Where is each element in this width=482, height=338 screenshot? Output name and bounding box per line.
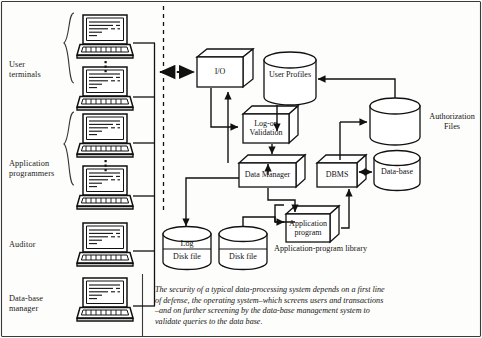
caption-line-1: The security of a typical data-processin… bbox=[155, 285, 455, 296]
store-authorization-files bbox=[370, 98, 420, 145]
store-disk-file bbox=[219, 227, 267, 270]
annotation-application-program-library: Application-program library bbox=[274, 244, 367, 253]
terminal-user-2 bbox=[77, 67, 133, 110]
box-label-data-manager: Data Manager bbox=[239, 170, 296, 179]
actor-label-application-programmers: Applicationprogrammers bbox=[9, 159, 54, 180]
box-label-logon-validation: Log-onValidation bbox=[243, 119, 289, 138]
store-label-log: Log bbox=[163, 239, 211, 248]
terminal-dbmanager bbox=[77, 278, 133, 321]
actor-label-database-manager: Data-basemanager bbox=[9, 294, 43, 315]
caption-line-3: –and on further screening by the data-ba… bbox=[155, 306, 455, 317]
store-label-log-disk-file: Disk file bbox=[163, 252, 211, 261]
caption-line-4: validate queries to the data base. bbox=[155, 317, 455, 328]
terminal-user-1 bbox=[77, 15, 133, 58]
terminal-bus bbox=[133, 43, 155, 306]
store-label-authorization-files: AuthorizationFiles bbox=[424, 112, 480, 133]
figure-caption: The security of a typical data-processin… bbox=[155, 285, 455, 327]
actor-label-auditor: Auditor bbox=[9, 240, 36, 250]
terminal-programmer-1 bbox=[77, 114, 133, 157]
box-label-dbms: DBMS bbox=[317, 170, 357, 179]
store-label-user-profiles: User Profiles bbox=[264, 70, 316, 79]
brace-user-terminals bbox=[64, 13, 74, 83]
box-label-io: I/O bbox=[197, 67, 243, 76]
ellipsis-programmers bbox=[105, 160, 107, 171]
store-label-disk-file: Disk file bbox=[219, 252, 267, 261]
terminal-programmer-2 bbox=[77, 166, 133, 209]
actor-label-user-terminals: Userterminals bbox=[9, 60, 41, 81]
terminal-auditor bbox=[77, 223, 133, 266]
ellipsis-users bbox=[105, 61, 107, 72]
box-label-application-program: Applicationprogram bbox=[286, 219, 330, 238]
store-label-database: Data-base bbox=[374, 167, 420, 176]
brace-application-programmers bbox=[64, 112, 74, 185]
figure-canvas: Userterminals Applicationprogrammers Aud… bbox=[0, 0, 482, 338]
caption-line-2: of defense, the operating system–which s… bbox=[155, 296, 455, 307]
